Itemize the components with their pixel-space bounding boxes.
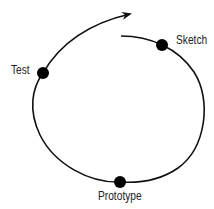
prototype-label: Prototype: [98, 189, 142, 203]
test-label: Test: [11, 63, 30, 77]
test-dot: [37, 67, 49, 79]
sketch-label: Sketch: [176, 33, 207, 47]
design-cycle-diagram: Sketch Prototype Test: [0, 0, 214, 209]
cycle-path: [0, 0, 214, 209]
prototype-dot: [114, 176, 126, 188]
sketch-dot: [156, 39, 168, 51]
